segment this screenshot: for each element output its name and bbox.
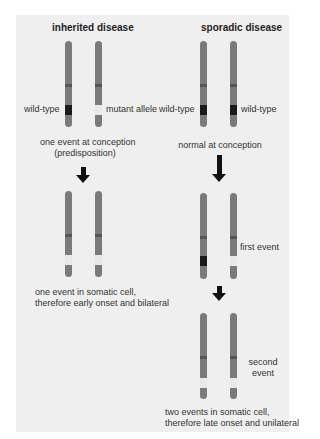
- chromosome-right-second-event-1: [200, 313, 207, 399]
- wild-type-label-left: wild-type: [159, 104, 195, 115]
- sporadic-disease-title: sporadic disease: [201, 22, 282, 33]
- mutant-band: [230, 256, 237, 266]
- caption-sporadic-line2: therefore late onset and unilateral: [165, 418, 265, 429]
- mutant-band: [230, 378, 237, 388]
- chromosome-left-somatic-1: [65, 191, 72, 277]
- chromosome-right-wild-type-2: [230, 41, 237, 127]
- centromere: [200, 236, 207, 239]
- centromere: [230, 356, 237, 359]
- chromosome-right-wild-type-1: [200, 41, 207, 127]
- second-event-label-line2: event: [247, 368, 279, 379]
- caption-normal-conception: normal at conception: [170, 140, 270, 151]
- chromosome-right-first-event-2: [230, 193, 237, 279]
- caption-inherited-line1: one event in somatic cell,: [35, 287, 135, 298]
- mutant-band: [200, 378, 207, 388]
- centromere: [95, 234, 102, 237]
- chromosome-right-second-event-2: [230, 313, 237, 399]
- chromosome-left-wild-type: [65, 41, 72, 127]
- first-event-label: first event: [240, 242, 279, 253]
- centromere: [65, 234, 72, 237]
- caption-inherited-line2: therefore early onset and bilateral: [35, 298, 135, 309]
- mutant-band: [95, 105, 102, 115]
- centromere: [65, 84, 72, 87]
- wild-type-band: [200, 256, 207, 266]
- inherited-disease-title: inherited disease: [52, 22, 134, 33]
- centromere: [230, 236, 237, 239]
- wild-type-band: [230, 105, 237, 115]
- chromosome-left-somatic-2: [95, 191, 102, 277]
- wild-type-band: [200, 105, 207, 115]
- caption-conception-line2: (predisposition): [40, 148, 130, 159]
- second-event-label-line1: second: [247, 357, 279, 368]
- mutant-band: [65, 255, 72, 265]
- centromere: [200, 356, 207, 359]
- chromosome-left-mutant: [95, 41, 102, 127]
- caption-sporadic-line1: two events in somatic cell,: [165, 407, 265, 418]
- wild-type-band: [65, 105, 72, 115]
- chromosome-right-first-event-1: [200, 193, 207, 279]
- centromere: [95, 84, 102, 87]
- wild-type-label-right: wild-type: [241, 104, 277, 115]
- wild-type-label: wild-type: [24, 104, 60, 115]
- centromere: [200, 84, 207, 87]
- caption-conception-line1: one event at conception: [40, 137, 130, 148]
- mutant-band: [95, 255, 102, 265]
- mutant-allele-label: mutant allele: [106, 104, 157, 115]
- centromere: [230, 84, 237, 87]
